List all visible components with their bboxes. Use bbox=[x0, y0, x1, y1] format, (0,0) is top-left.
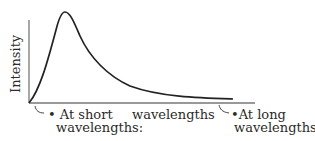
short-pointer-arrow bbox=[35, 106, 44, 113]
x-axis-label: wavelengths bbox=[132, 108, 215, 121]
intensity-curve bbox=[29, 12, 233, 103]
y-axis-label: Intensity bbox=[8, 35, 23, 93]
short-wavelength-annotation-line2: wavelengths: bbox=[56, 121, 143, 134]
long-wavelength-annotation-line2: wavelengths: bbox=[234, 121, 315, 134]
long-pointer-arrow bbox=[219, 105, 229, 113]
